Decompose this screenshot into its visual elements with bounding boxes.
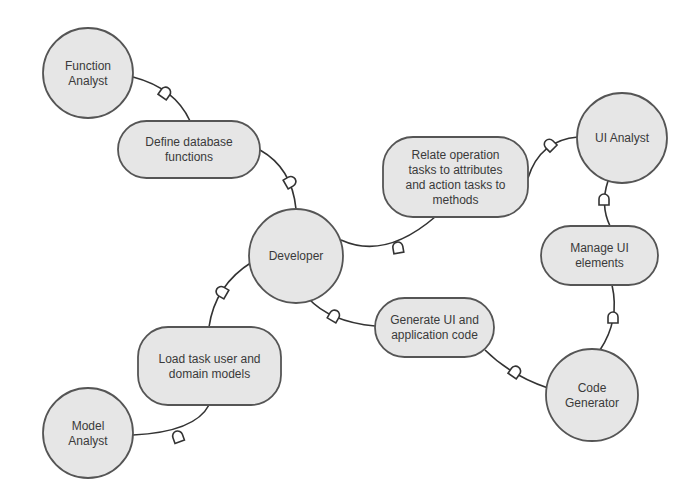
task-load-models[interactable]: Load task user anddomain models: [138, 327, 281, 405]
node-label-line: Generate UI and: [390, 313, 479, 327]
node-label-line: Generator: [565, 396, 619, 410]
edge-developer-to-relate_tasks: [341, 217, 435, 246]
node-label-line: Model: [72, 419, 105, 433]
edge-load_models-to-model_analyst: [133, 405, 209, 435]
socket-connector-icon: [608, 312, 618, 323]
collaboration-diagram: Define databasefunctionsRelate operation…: [0, 0, 696, 501]
socket-connector-icon: [171, 430, 184, 444]
node-label-line: Define database: [145, 135, 233, 149]
task-relate-tasks[interactable]: Relate operationtasks to attributesand a…: [383, 137, 528, 217]
edge-function_analyst-to-define_db_functions: [133, 77, 190, 121]
socket-connector-icon: [283, 175, 298, 189]
node-label-line: Relate operation: [411, 148, 499, 162]
socket-connector-icon: [327, 308, 341, 323]
actor-model-analyst[interactable]: ModelAnalyst: [43, 388, 133, 478]
actor-developer[interactable]: Developer: [249, 209, 343, 303]
node-label-line: Manage UI: [570, 241, 629, 255]
edge-developer-to-load_models: [209, 262, 252, 327]
node-label-line: Analyst: [68, 74, 108, 88]
socket-connector-icon: [392, 241, 404, 254]
node-label-line: Load task user and: [158, 352, 260, 366]
node-label-line: elements: [575, 256, 624, 270]
actor-function-analyst[interactable]: FunctionAnalyst: [43, 28, 133, 118]
node-label-line: Analyst: [68, 434, 108, 448]
node-label-line: application code: [391, 328, 478, 342]
node-label-line: tasks to attributes: [408, 163, 502, 177]
actor-ui-analyst[interactable]: UI Analyst: [577, 93, 667, 183]
node-label-line: and action tasks to: [405, 178, 505, 192]
socket-connector-icon: [599, 194, 609, 205]
actor-code-generator[interactable]: CodeGenerator: [546, 349, 638, 441]
socket-connector-icon: [214, 285, 229, 299]
node-label-line: domain models: [169, 367, 250, 381]
task-define-db-functions[interactable]: Define databasefunctions: [118, 121, 260, 178]
task-manage-ui-elements[interactable]: Manage UIelements: [541, 226, 658, 285]
node-label-line: Developer: [269, 249, 324, 263]
edge-developer-to-generate_code: [308, 298, 375, 326]
node-label-line: methods: [432, 193, 478, 207]
node-label-line: Code: [578, 381, 607, 395]
node-label-line: functions: [165, 150, 213, 164]
node-label-line: UI Analyst: [595, 131, 650, 145]
node-label-line: Function: [65, 59, 111, 73]
task-generate-code[interactable]: Generate UI andapplication code: [375, 298, 494, 357]
